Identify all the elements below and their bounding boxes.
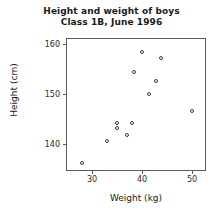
chart-subtitle: Class 1B, June 1996 [0,17,223,28]
x-axis-tick [142,170,143,174]
data-point [80,161,84,165]
y-axis-title: Height (cm) [9,45,19,135]
data-point [132,70,136,74]
x-axis-tick [192,170,193,174]
chart-title-main: Height and weight of boys [0,6,223,17]
data-point [105,139,109,143]
x-axis-tick-label: 50 [187,175,197,184]
plot-frame: 140150160304050 [66,38,206,171]
chart-title: Height and weight of boys Class 1B, June… [0,6,223,28]
data-point [159,56,163,60]
data-point [140,50,144,54]
scatter-chart: Height and weight of boys Class 1B, June… [0,0,223,217]
x-axis-title: Weight (kg) [66,193,206,203]
y-axis-tick [63,94,67,95]
data-point [130,121,134,125]
data-point [115,121,119,125]
data-point [154,79,158,83]
y-axis-tick [63,44,67,45]
y-axis-tick-label: 160 [45,40,60,49]
data-point [147,92,151,96]
data-point [115,126,119,130]
y-axis-tick-label: 140 [45,140,60,149]
x-axis-tick-label: 40 [137,175,147,184]
data-point [125,133,129,137]
plot-area: 140150160304050 [67,39,205,170]
x-axis-tick [92,170,93,174]
y-axis-tick-label: 150 [45,90,60,99]
x-axis-tick-label: 30 [87,175,97,184]
data-point [190,109,194,113]
y-axis-tick [63,144,67,145]
